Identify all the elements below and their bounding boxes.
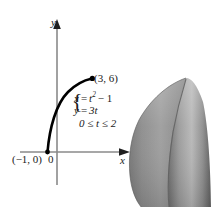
equation-x-exponent: 2 — [92, 91, 96, 99]
x-axis-label: x — [120, 155, 125, 166]
solid-shading-overlay — [129, 78, 211, 207]
y-axis-label: y — [51, 17, 56, 28]
curve-start-point-label: (−1, 0) — [12, 154, 42, 165]
equation-x-lhs: x — [74, 92, 79, 104]
equation-y-equals: = — [81, 104, 87, 116]
parametric-curve-figure: y x 0 (−1, 0) (3, 6) { x=t2− 1 y=3t 0 ≤ … — [0, 0, 211, 207]
equation-x-equals: = — [81, 92, 87, 104]
origin-label: 0 — [48, 154, 54, 165]
equation-x-rest: − 1 — [98, 92, 112, 104]
solid-of-revolution-group — [129, 78, 211, 207]
equation-y-lhs: y — [74, 104, 79, 116]
equation-y-rhs: 3t — [89, 104, 98, 116]
parametric-equations-block: x=t2− 1 y=3t — [74, 92, 112, 118]
curve-end-point-label: (3, 6) — [94, 73, 118, 84]
parameter-range-label: 0 ≤ t ≤ 2 — [79, 118, 116, 129]
